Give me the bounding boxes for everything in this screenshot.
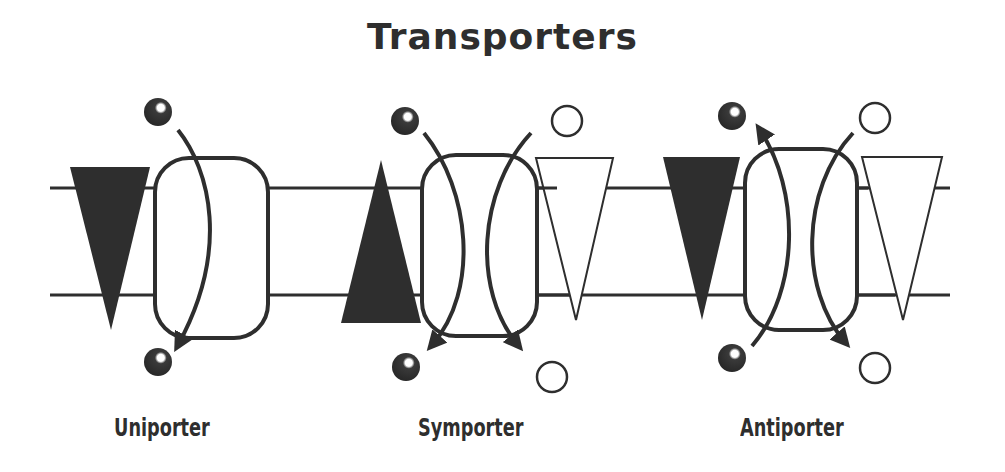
- symporter-label: Symporter: [418, 414, 524, 442]
- antiporter: [663, 102, 942, 383]
- open-circle-solute-outside: [860, 103, 890, 133]
- gradient-triangle-filled-up: [341, 160, 421, 323]
- gradient-triangle-filled-down: [70, 167, 150, 330]
- filled-sphere-solute-outside: [391, 107, 419, 135]
- symporter: [341, 106, 613, 392]
- uniporter: [70, 98, 268, 376]
- transporter-protein: [155, 158, 268, 338]
- filled-sphere-solute-inside: [144, 348, 172, 376]
- filled-sphere-solute-inside: [718, 344, 746, 372]
- transporters-diagram: [0, 0, 1005, 472]
- open-circle-solute-inside: [537, 362, 567, 392]
- filled-sphere-solute-outside: [144, 98, 172, 126]
- open-circle-solute-outside: [552, 106, 582, 136]
- filled-sphere-solute-inside: [392, 353, 420, 381]
- transporter-protein: [745, 149, 857, 330]
- filled-sphere-solute-outside: [718, 102, 746, 130]
- transporter-protein: [422, 155, 537, 336]
- antiporter-label: Antiporter: [740, 414, 844, 442]
- uniporter-label: Uniporter: [114, 414, 210, 442]
- open-circle-solute-inside: [860, 353, 890, 383]
